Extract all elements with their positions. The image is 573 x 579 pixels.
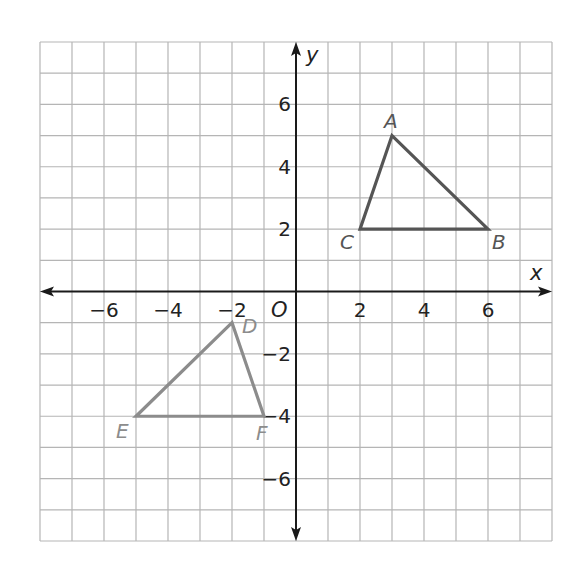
vertex-label-a: A <box>382 109 398 133</box>
coordinate-plane: −6−4−2246642−2−4−6 ABCDEF x y O <box>0 0 573 579</box>
y-tick-label: −6 <box>262 467 291 491</box>
x-tick-label: 4 <box>418 298 431 322</box>
y-tick-label: −2 <box>262 342 291 366</box>
x-tick-label: −6 <box>89 298 118 322</box>
y-axis-label: y <box>305 43 319 67</box>
axes <box>40 42 552 541</box>
x-tick-label: −4 <box>153 298 182 322</box>
y-tick-label: 6 <box>278 92 291 116</box>
vertex-label-b: B <box>492 230 506 254</box>
vertex-label-d: D <box>242 314 257 338</box>
vertex-label-f: F <box>256 421 268 445</box>
triangles: ABCDEF <box>116 109 506 446</box>
y-tick-label: 4 <box>278 155 291 179</box>
x-tick-label: 6 <box>482 298 495 322</box>
origin-label: O <box>271 298 288 322</box>
y-tick-label: 2 <box>278 217 291 241</box>
vertex-label-c: C <box>340 230 354 254</box>
x-tick-label: 2 <box>354 298 367 322</box>
vertex-label-e: E <box>116 419 129 443</box>
x-axis-label: x <box>529 261 543 285</box>
